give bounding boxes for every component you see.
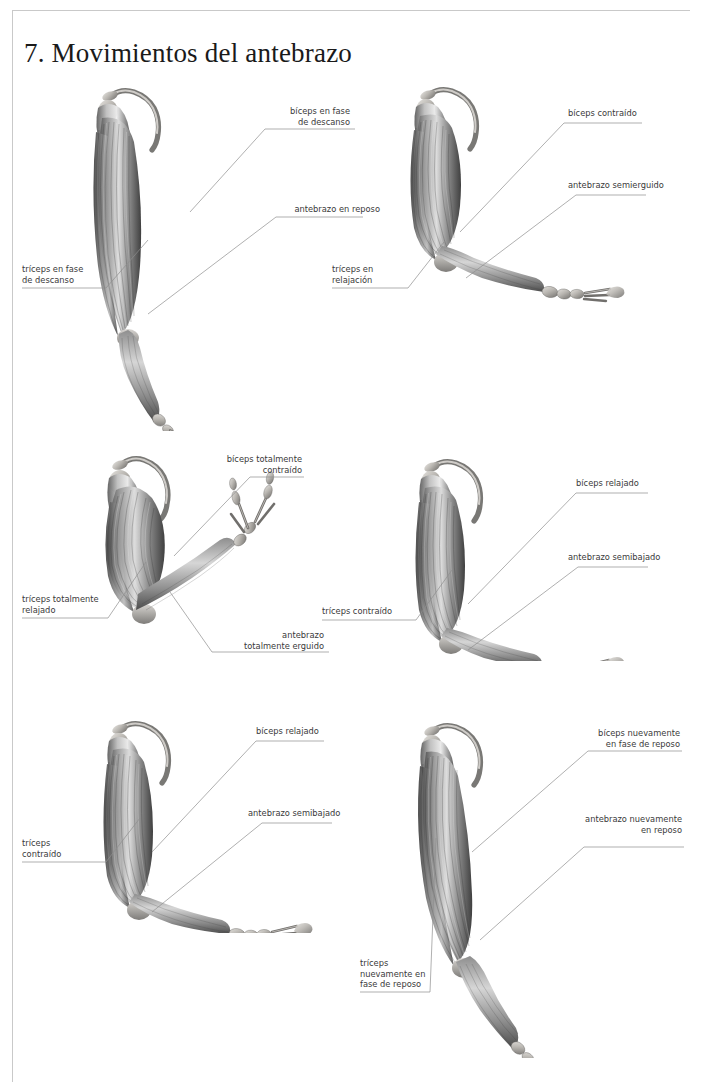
leader-antebrazo-fig4 bbox=[468, 564, 648, 659]
label-antebrazo-fig2: antebrazo semierguido bbox=[568, 180, 698, 191]
leader-antebrazo-fig1 bbox=[148, 214, 363, 324]
leader-antebrazo-fig5 bbox=[152, 820, 332, 920]
figure-brazo-semibajado: bíceps relajado antebrazo semibajado trí… bbox=[410, 456, 670, 661]
label-biceps-fig3: bíceps totalmente contraído bbox=[182, 454, 302, 475]
label-biceps-fig4: bíceps relajado bbox=[576, 478, 686, 489]
figure-brazo-nuevamente-en-reposo: bíceps nuevamente en fase de reposo ante… bbox=[412, 718, 672, 1058]
label-triceps-fig2: tríceps en relajación bbox=[332, 264, 432, 285]
figure-brazo-en-reposo: bíceps en fase de descanso antebrazo en … bbox=[88, 86, 318, 431]
label-triceps-fig6: tríceps nuevamente en fase de reposo bbox=[360, 958, 470, 990]
page-title: 7. Movimientos del antebrazo bbox=[24, 38, 352, 69]
label-triceps-fig3: tríceps totalmente relajado bbox=[22, 594, 142, 615]
leader-triceps-fig4 bbox=[322, 616, 472, 696]
label-triceps-fig5: tríceps contraído bbox=[22, 838, 122, 859]
label-antebrazo-fig4: antebrazo semibajado bbox=[568, 552, 698, 563]
label-biceps-fig2: bíceps contraído bbox=[568, 108, 678, 119]
label-antebrazo-fig5: antebrazo semibajado bbox=[248, 808, 378, 819]
leader-antebrazo-fig3 bbox=[164, 576, 329, 656]
figure-brazo-semibajado-descendiendo: bíceps relajado antebrazo semibajado trí… bbox=[100, 718, 360, 933]
page-border-left bbox=[12, 10, 13, 1082]
leader-antebrazo-fig6 bbox=[462, 844, 684, 954]
leader-biceps-fig3 bbox=[154, 474, 304, 564]
page-border-top bbox=[12, 10, 690, 11]
leader-triceps-fig3 bbox=[22, 614, 162, 694]
label-antebrazo-fig1: antebrazo en reposo bbox=[270, 204, 380, 215]
label-biceps-fig6: bíceps nuevamente en fase de reposo bbox=[540, 728, 680, 749]
leader-antebrazo-fig2 bbox=[466, 192, 646, 287]
figure-brazo-semierguido: bíceps contraído antebrazo semierguido t… bbox=[404, 86, 674, 316]
label-biceps-fig5: bíceps relajado bbox=[256, 726, 366, 737]
label-biceps-fig1: bíceps en fase de descanso bbox=[250, 106, 350, 127]
leader-triceps-fig6 bbox=[360, 988, 480, 1082]
leader-triceps-fig2 bbox=[332, 284, 462, 364]
leader-triceps-fig5 bbox=[22, 858, 162, 938]
label-triceps-fig1: tríceps en fase de descanso bbox=[22, 264, 132, 285]
leader-triceps-fig1 bbox=[22, 284, 172, 364]
label-antebrazo-fig6: antebrazo nuevamente en reposo bbox=[530, 814, 682, 835]
figure-brazo-totalmente-erguido: bíceps totalmente contraído antebrazo to… bbox=[100, 452, 330, 657]
label-triceps-fig4: tríceps contraído bbox=[322, 606, 432, 617]
